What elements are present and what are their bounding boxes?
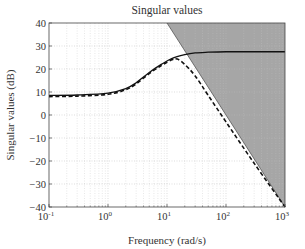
y-axis-label: Singular values (dB) — [4, 69, 17, 160]
y-tick-label: −30 — [30, 179, 46, 190]
x-tick-label: 102 — [216, 210, 231, 222]
x-tick-label: 100 — [98, 210, 113, 222]
x-axis-label: Frequency (rad/s) — [128, 234, 206, 247]
y-tick-label: 0 — [41, 110, 46, 121]
y-tick-label: 20 — [36, 64, 47, 75]
y-tick-label: −10 — [30, 133, 46, 144]
y-tick-label: −40 — [30, 202, 46, 213]
singular-values-chart: 10-1100101102103403020100−10−20−30−40 Si… — [0, 0, 305, 249]
y-tick-label: −20 — [30, 156, 46, 167]
chart-title: Singular values — [131, 4, 203, 17]
x-tick-label: 103 — [275, 210, 290, 222]
y-tick-label: 40 — [36, 18, 47, 29]
y-tick-label: 10 — [36, 87, 47, 98]
x-tick-label: 101 — [157, 210, 172, 222]
y-tick-label: 30 — [36, 41, 47, 52]
